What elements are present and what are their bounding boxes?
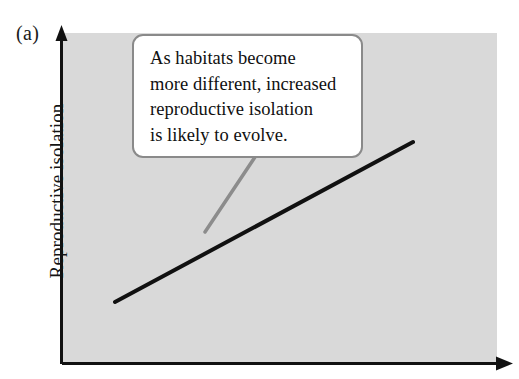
x-axis-arrowhead-icon [496, 357, 513, 371]
panel-label: (a) [16, 22, 39, 45]
figure-panel-a: (a) Reproductive isolation As habitats b… [0, 0, 519, 379]
y-axis-label: Reproductive isolation [46, 81, 68, 301]
callout-box: As habitats become more different, incre… [132, 34, 363, 158]
callout-text: As habitats become more different, incre… [150, 46, 349, 148]
